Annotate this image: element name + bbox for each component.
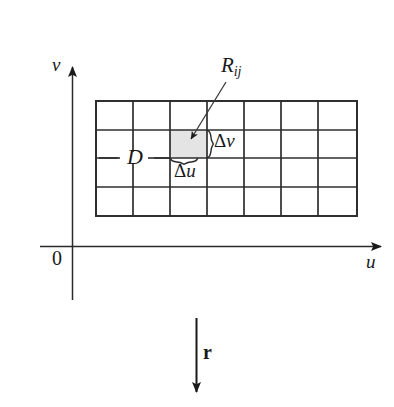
delta-v-variable: v bbox=[226, 130, 234, 151]
highlighted-subrectangle bbox=[170, 130, 207, 158]
region-d-label: D bbox=[127, 146, 143, 168]
delta-u-variable: u bbox=[186, 160, 196, 181]
delta-v-brace bbox=[208, 131, 214, 158]
delta-symbol: Δ bbox=[174, 160, 186, 181]
figure-canvas: v u 0 D Rij Δv Δu r bbox=[0, 0, 394, 407]
vector-r-label: r bbox=[203, 342, 212, 362]
delta-symbol: Δ bbox=[214, 130, 226, 151]
rij-subscript: ij bbox=[234, 64, 241, 79]
subrectangle-rij-label: Rij bbox=[221, 55, 241, 79]
u-axis-label: u bbox=[366, 252, 376, 271]
delta-u-label: Δu bbox=[174, 161, 196, 180]
delta-v-label: Δv bbox=[214, 131, 235, 150]
origin-label: 0 bbox=[52, 248, 62, 268]
rij-base: R bbox=[221, 53, 234, 77]
v-axis-label: v bbox=[52, 55, 60, 74]
